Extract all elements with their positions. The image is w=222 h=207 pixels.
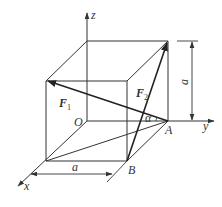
point-b-label: B (128, 163, 136, 177)
x-axis (18, 121, 87, 186)
dimension-a-horizontal-label: a (72, 160, 78, 174)
labels: z y x O A B α F1 F2 a a (23, 8, 209, 193)
origin-label: O (74, 115, 83, 129)
force-f2-arrow (127, 43, 167, 161)
cube-force-diagram: z y x O A B α F1 F2 a a (0, 0, 222, 207)
force-f1-label: F1 (58, 96, 71, 112)
point-a-label: A (164, 123, 173, 137)
force-f2-label: F2 (135, 86, 148, 102)
angle-alpha-label: α (145, 111, 152, 125)
z-axis-label: z (90, 8, 96, 22)
x-axis-label: x (23, 179, 30, 193)
y-axis-label: y (202, 119, 209, 133)
dimension-a-vertical-label: a (177, 79, 191, 85)
